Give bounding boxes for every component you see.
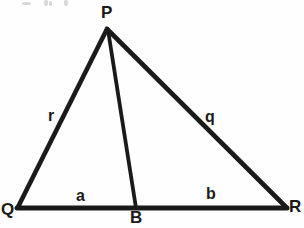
vertex-label-p: P — [101, 4, 112, 21]
vertex-label-r: R — [289, 198, 301, 215]
vertex-label-q: Q — [1, 201, 14, 218]
side-label-q: q — [205, 109, 215, 125]
point-label-b: B — [130, 209, 142, 226]
geometry-figure: P Q R B r q a b — [0, 0, 304, 228]
triangle-drawing — [0, 0, 304, 228]
segment-label-a: a — [76, 188, 85, 204]
side-label-r: r — [48, 108, 54, 124]
segment-label-b: b — [206, 186, 216, 202]
segment-PR — [107, 29, 286, 207]
segment-QP — [18, 29, 107, 207]
